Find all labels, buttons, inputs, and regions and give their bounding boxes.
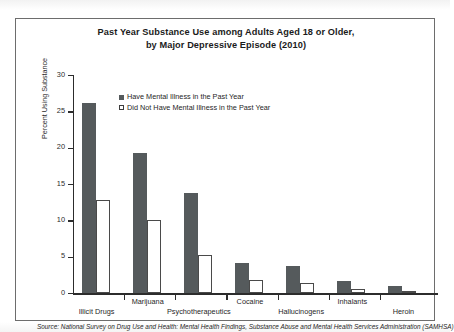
bar-illicit-drugs-series-2: [96, 200, 110, 293]
bar-illicit-drugs-series-1: [82, 103, 96, 293]
x-axis-label-illicit-drugs: Illicit Drugs: [79, 307, 115, 316]
y-axis-tick-label: 5: [61, 251, 65, 260]
plot-area: 051015202530: [73, 75, 431, 293]
bar-cocaine-series-1: [235, 263, 249, 293]
bar-marijuana-series-2: [147, 220, 161, 293]
bar-psychotherapeutics-series-2: [198, 255, 212, 293]
bar-inhalants-series-2: [351, 289, 365, 293]
chart-figure-frame: Past Year Substance Use among Adults Age…: [15, 18, 435, 321]
y-axis-tick-label: 0: [61, 288, 65, 297]
y-axis-tick: 0: [68, 293, 73, 294]
y-axis-tick: 5: [68, 257, 73, 258]
x-axis-tick: [329, 293, 330, 300]
y-axis-title: Percent Using Substance: [40, 58, 49, 139]
x-axis-tick: [124, 293, 125, 300]
bar-cocaine-series-2: [249, 280, 263, 293]
x-axis-label-hallucinogens: Hallucinogens: [278, 307, 324, 316]
y-axis-tick: 10: [68, 220, 73, 221]
chart-title-line-2: by Major Depressive Episode (2010): [46, 39, 406, 52]
x-axis-label-inhalants: Inhalants: [337, 297, 367, 306]
y-axis-tick-label: 25: [57, 106, 65, 115]
x-axis-label-heroin: Heroin: [393, 307, 415, 316]
y-axis-tick: 15: [68, 184, 73, 185]
chart-title-line-1: Past Year Substance Use among Adults Age…: [46, 26, 406, 39]
page-title: Past Year Substance Use among Adults Age…: [46, 26, 406, 51]
bar-inhalants-series-1: [337, 281, 351, 293]
bar-psychotherapeutics-series-1: [184, 193, 198, 293]
source-note: Source: National Survey on Drug Use and …: [37, 323, 454, 330]
y-axis-tick-label: 30: [57, 70, 65, 79]
bar-marijuana-series-1: [133, 153, 147, 293]
x-axis-label-marijuana: Marijuana: [132, 297, 164, 306]
x-axis: [73, 293, 438, 295]
y-axis-tick: 20: [68, 148, 73, 149]
bar-hallucinogens-series-1: [286, 266, 300, 293]
bar-heroin-series-2: [402, 291, 416, 293]
bar-heroin-series-1: [388, 286, 402, 293]
y-axis-tick: 30: [68, 75, 73, 76]
y-axis-tick-label: 10: [57, 215, 65, 224]
x-axis-label-cocaine: Cocaine: [237, 297, 264, 306]
x-axis-tick: [226, 293, 227, 300]
x-axis-tick: [175, 293, 176, 300]
x-axis-label-psychotherapeutics: Psychotherapeutics: [167, 307, 231, 316]
x-axis-tick: [380, 293, 381, 300]
y-axis-tick-label: 20: [57, 142, 65, 151]
y-axis-tick: 25: [68, 111, 73, 112]
bar-hallucinogens-series-2: [300, 283, 314, 293]
x-axis-tick: [278, 293, 279, 300]
y-axis-tick-label: 15: [57, 179, 65, 188]
